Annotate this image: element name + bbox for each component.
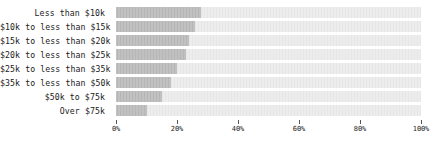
plot-area <box>116 6 421 118</box>
y-axis-label: Less than $10k <box>0 6 110 20</box>
x-axis-tick <box>299 120 300 124</box>
bar-fill <box>116 7 201 18</box>
x-axis-tick <box>360 120 361 124</box>
bar-fill <box>116 91 162 102</box>
bar-track <box>116 91 421 102</box>
y-axis-label: Over $75k <box>0 104 110 118</box>
bar-fill <box>116 21 195 32</box>
x-axis-tick-label: 100% <box>413 125 429 133</box>
bar-row <box>116 76 421 90</box>
bar-fill <box>116 63 177 74</box>
y-axis-label: $25k to less than $35k <box>0 62 110 76</box>
bar-row <box>116 90 421 104</box>
bar-row <box>116 62 421 76</box>
x-axis-tick-label: 20% <box>171 125 183 133</box>
x-axis-tick-label: 0% <box>112 125 120 133</box>
bar-fill <box>116 77 171 88</box>
bar-row <box>116 48 421 62</box>
y-axis-label: $15k to less than $20k <box>0 34 110 48</box>
x-axis-tick <box>238 120 239 124</box>
x-axis: 0%20%40%60%80%100% <box>116 120 421 144</box>
x-axis-tick-label: 80% <box>354 125 366 133</box>
x-axis-tick <box>421 120 422 124</box>
bar-row <box>116 104 421 118</box>
bar-row <box>116 20 421 34</box>
bar-track <box>116 105 421 116</box>
x-axis-tick-label: 40% <box>232 125 244 133</box>
y-axis-label: $35k to less than $50k <box>0 76 110 90</box>
y-axis-label: $20k to less than $25k <box>0 48 110 62</box>
horizontal-bar-chart: Less than $10k $10k to less than $15k $1… <box>0 0 437 146</box>
x-axis-tick <box>177 120 178 124</box>
bar-fill <box>116 35 189 46</box>
y-axis-label: $10k to less than $15k <box>0 20 110 34</box>
bar-row <box>116 6 421 20</box>
x-axis-tick-label: 60% <box>293 125 305 133</box>
bar-row <box>116 34 421 48</box>
y-axis-category-labels: Less than $10k $10k to less than $15k $1… <box>0 6 110 118</box>
y-axis-label: $50k to $75k <box>0 90 110 104</box>
x-axis-tick <box>116 120 117 124</box>
bar-fill <box>116 105 147 116</box>
bar-fill <box>116 49 186 60</box>
